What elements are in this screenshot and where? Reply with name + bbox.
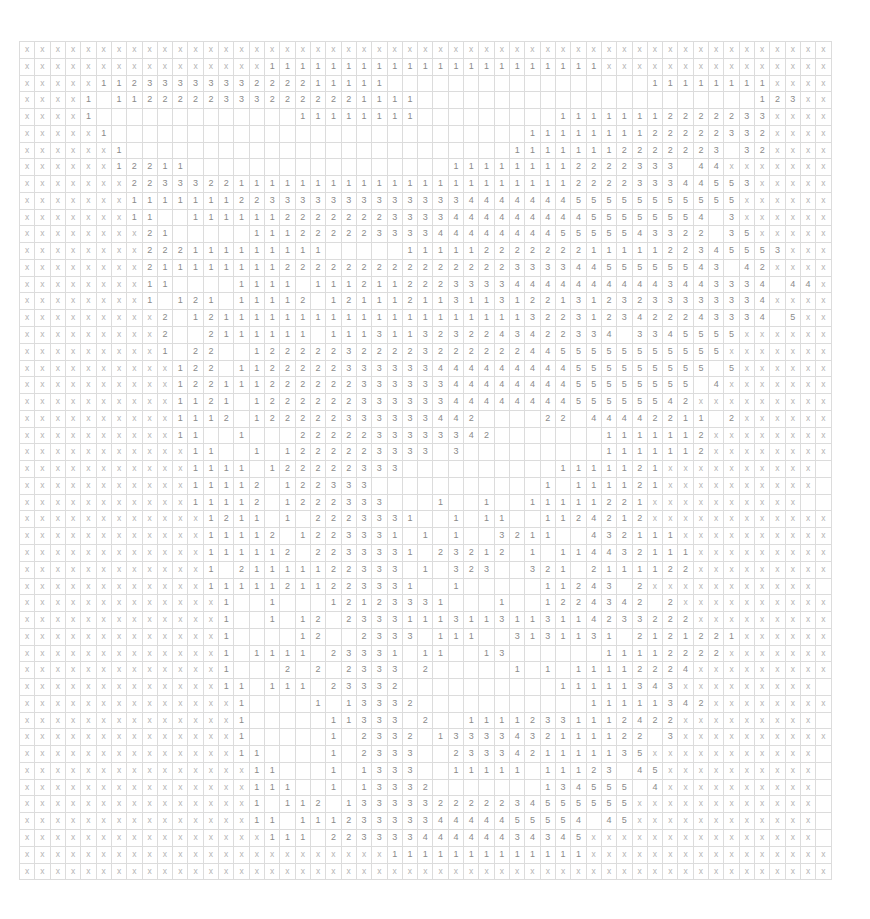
board-cell[interactable]: 3 <box>602 528 617 545</box>
board-cell[interactable]: 5 <box>571 394 586 411</box>
board-cell[interactable]: 3 <box>403 629 418 646</box>
board-cell[interactable]: 1 <box>311 277 326 294</box>
board-cell[interactable]: x <box>20 126 35 143</box>
board-cell[interactable]: 1 <box>663 76 678 93</box>
board-cell[interactable]: 4 <box>571 277 586 294</box>
board-cell[interactable]: 1 <box>173 394 188 411</box>
board-cell[interactable]: x <box>724 478 739 495</box>
board-cell[interactable]: 1 <box>633 495 648 512</box>
board-cell[interactable]: 1 <box>678 76 693 93</box>
board-cell[interactable]: x <box>173 713 188 730</box>
board-cell[interactable]: x <box>35 511 50 528</box>
board-cell[interactable]: 3 <box>372 226 387 243</box>
board-cell[interactable]: x <box>678 796 693 813</box>
board-cell[interactable] <box>525 696 540 713</box>
board-cell[interactable] <box>418 126 433 143</box>
board-cell[interactable]: 1 <box>265 579 280 596</box>
board-cell[interactable]: 1 <box>464 310 479 327</box>
board-cell[interactable]: 1 <box>357 92 372 109</box>
board-cell[interactable]: 2 <box>326 830 341 847</box>
board-cell[interactable]: x <box>51 260 66 277</box>
board-cell[interactable] <box>234 226 249 243</box>
board-cell[interactable]: 4 <box>678 277 693 294</box>
board-cell[interactable]: 1 <box>234 277 249 294</box>
board-cell[interactable] <box>265 444 280 461</box>
board-cell[interactable]: x <box>617 59 632 76</box>
board-cell[interactable]: x <box>357 42 372 59</box>
board-cell[interactable]: x <box>740 545 755 562</box>
board-cell[interactable]: 1 <box>280 796 295 813</box>
board-cell[interactable]: x <box>740 394 755 411</box>
board-cell[interactable]: 1 <box>602 729 617 746</box>
board-cell[interactable]: x <box>740 729 755 746</box>
board-cell[interactable]: x <box>770 428 785 445</box>
board-cell[interactable] <box>464 126 479 143</box>
board-cell[interactable] <box>495 411 510 428</box>
board-cell[interactable]: x <box>709 579 724 596</box>
board-cell[interactable]: x <box>786 411 801 428</box>
board-cell[interactable]: 3 <box>709 310 724 327</box>
board-cell[interactable]: x <box>801 92 816 109</box>
board-cell[interactable]: 1 <box>755 92 770 109</box>
board-cell[interactable]: x <box>770 545 785 562</box>
board-cell[interactable]: x <box>740 864 755 881</box>
board-cell[interactable]: x <box>219 864 234 881</box>
board-cell[interactable]: x <box>678 746 693 763</box>
board-cell[interactable]: x <box>127 847 142 864</box>
board-cell[interactable]: x <box>81 830 96 847</box>
board-cell[interactable]: 1 <box>326 595 341 612</box>
board-cell[interactable]: 4 <box>801 277 816 294</box>
board-cell[interactable]: x <box>66 662 81 679</box>
board-cell[interactable]: 1 <box>265 830 280 847</box>
board-cell[interactable]: x <box>801 813 816 830</box>
board-cell[interactable]: x <box>786 495 801 512</box>
board-cell[interactable]: 2 <box>357 729 372 746</box>
board-cell[interactable]: x <box>816 612 831 629</box>
board-cell[interactable]: 5 <box>678 327 693 344</box>
board-cell[interactable]: 1 <box>510 176 525 193</box>
board-cell[interactable] <box>250 679 265 696</box>
board-cell[interactable]: x <box>648 830 663 847</box>
board-cell[interactable]: 5 <box>617 344 632 361</box>
board-cell[interactable]: 1 <box>479 59 494 76</box>
board-cell[interactable]: 1 <box>510 847 525 864</box>
board-cell[interactable]: x <box>770 579 785 596</box>
board-cell[interactable]: 1 <box>372 59 387 76</box>
board-cell[interactable]: 1 <box>250 780 265 797</box>
board-cell[interactable]: 1 <box>633 109 648 126</box>
board-cell[interactable]: x <box>127 696 142 713</box>
board-cell[interactable]: 1 <box>372 92 387 109</box>
board-cell[interactable]: 1 <box>541 528 556 545</box>
board-cell[interactable]: 2 <box>357 444 372 461</box>
board-cell[interactable]: x <box>51 763 66 780</box>
board-cell[interactable]: x <box>127 612 142 629</box>
board-cell[interactable]: 1 <box>510 310 525 327</box>
board-cell[interactable]: x <box>20 847 35 864</box>
board-cell[interactable]: 1 <box>357 176 372 193</box>
board-cell[interactable]: 3 <box>357 511 372 528</box>
board-cell[interactable]: x <box>97 428 112 445</box>
board-cell[interactable]: x <box>97 193 112 210</box>
board-cell[interactable] <box>311 293 326 310</box>
board-cell[interactable]: 4 <box>587 545 602 562</box>
board-cell[interactable]: 2 <box>296 444 311 461</box>
board-cell[interactable]: x <box>204 629 219 646</box>
board-cell[interactable] <box>495 143 510 160</box>
board-cell[interactable]: 1 <box>143 293 158 310</box>
board-cell[interactable]: x <box>35 662 50 679</box>
board-cell[interactable] <box>648 595 663 612</box>
board-cell[interactable]: 4 <box>755 293 770 310</box>
board-cell[interactable] <box>265 143 280 160</box>
board-cell[interactable]: 2 <box>250 193 265 210</box>
board-cell[interactable]: 3 <box>617 293 632 310</box>
board-cell[interactable]: 2 <box>709 109 724 126</box>
board-cell[interactable]: 5 <box>663 361 678 378</box>
board-cell[interactable] <box>479 109 494 126</box>
board-cell[interactable]: 2 <box>234 562 249 579</box>
board-cell[interactable]: x <box>724 646 739 663</box>
board-cell[interactable]: x <box>127 813 142 830</box>
board-cell[interactable]: 4 <box>525 344 540 361</box>
board-cell[interactable]: 1 <box>296 562 311 579</box>
board-cell[interactable]: x <box>173 847 188 864</box>
board-cell[interactable]: 1 <box>219 243 234 260</box>
